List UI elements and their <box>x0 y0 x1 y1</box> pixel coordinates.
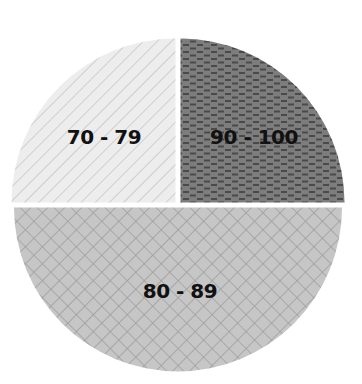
slice-90-100-label: 90 - 100 <box>210 125 298 149</box>
slice-90-100[interactable]: 90 - 100 <box>181 39 345 203</box>
slice-80-89-label: 80 - 89 <box>143 279 217 303</box>
slice-70-79-label: 70 - 79 <box>67 125 141 149</box>
slice-80-89[interactable]: 80 - 89 <box>14 208 342 372</box>
slice-70-79[interactable]: 70 - 79 <box>12 39 176 203</box>
slice-70-79-wedge[interactable] <box>12 39 176 203</box>
slice-90-100-wedge[interactable] <box>181 39 345 203</box>
pie-chart: 90 - 100 80 - 89 70 - 79 <box>0 0 362 384</box>
